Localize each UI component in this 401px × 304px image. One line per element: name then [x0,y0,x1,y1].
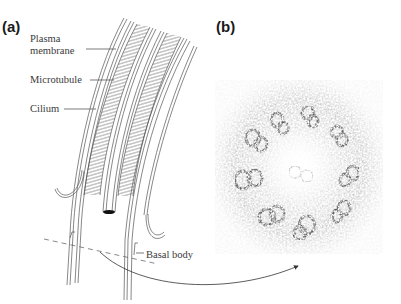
electron-micrograph [215,80,383,254]
arrow-to-micrograph [100,252,298,285]
basal-body-left [70,232,75,238]
section-plane-dashed-line [44,239,158,264]
central-pair-end [103,210,115,214]
membrane-curl-right-inner [148,214,164,235]
membrane-curl-right [146,215,165,238]
membrane-curl-left-inner [55,171,84,197]
